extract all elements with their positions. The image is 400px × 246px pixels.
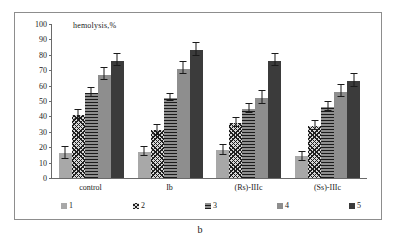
category-label-2: Ib	[130, 183, 209, 192]
bar	[177, 69, 190, 178]
error-bar-cap-top	[62, 146, 69, 147]
error-bar-cap-top	[167, 93, 174, 94]
error-bar-cap-bottom	[271, 65, 278, 66]
error-bar-cap-bottom	[75, 118, 82, 119]
bar-slot	[177, 24, 190, 178]
category-label-3: (Rs)-IIIc	[209, 183, 288, 192]
error-bar-cap-top	[311, 120, 318, 121]
legend-label: 5	[357, 201, 361, 210]
y-axis-tick-mark	[49, 178, 52, 179]
bar-slot	[190, 24, 203, 178]
figure: hemolysis,% 1009080706050403020100 contr…	[0, 0, 400, 246]
error-bar-cap-top	[350, 73, 357, 74]
error-bar-cap-top	[337, 84, 344, 85]
error-bar-cap-top	[180, 61, 187, 62]
bar-slot	[72, 24, 85, 178]
bar-slot	[255, 24, 268, 178]
bar-slot	[59, 24, 72, 178]
plot-area: 1009080706050403020100	[51, 24, 367, 179]
category-label-1: control	[51, 183, 130, 192]
bar-slot	[138, 24, 151, 178]
bar	[334, 92, 347, 178]
error-bar-cap-bottom	[167, 100, 174, 101]
bar-slot	[85, 24, 98, 178]
y-axis-tick-label: 100	[35, 20, 47, 29]
error-bar-cap-top	[219, 144, 226, 145]
error-bar-cap-bottom	[180, 73, 187, 74]
bar-slot	[216, 24, 229, 178]
bar-slot	[295, 24, 308, 178]
bar	[72, 115, 85, 178]
legend-swatch-icon	[349, 203, 355, 209]
error-bar-cap-top	[193, 42, 200, 43]
bar	[347, 81, 360, 178]
error-bar-cap-top	[245, 103, 252, 104]
error-bar-cap-bottom	[258, 103, 265, 104]
bar-slot	[111, 24, 124, 178]
error-bar-cap-top	[101, 67, 108, 68]
y-axis-tick-label: 10	[39, 158, 47, 167]
legend-item-3[interactable]: 3	[205, 201, 217, 210]
bar	[242, 109, 255, 178]
error-bar-cap-top	[271, 53, 278, 54]
error-bar-cap-top	[324, 101, 331, 102]
bar-slot	[151, 24, 164, 178]
bar-slot	[229, 24, 242, 178]
figure-caption: b	[0, 224, 400, 235]
bar-group	[288, 24, 367, 178]
legend-label: 1	[69, 201, 73, 210]
error-bar-cap-bottom	[311, 129, 318, 130]
error-bar-cap-top	[154, 124, 161, 125]
bar	[308, 126, 321, 178]
error-bar-cap-top	[298, 151, 305, 152]
error-bar-cap-bottom	[337, 96, 344, 97]
legend-swatch-icon	[205, 203, 211, 209]
legend-label: 4	[285, 201, 289, 210]
bar-slot	[308, 24, 321, 178]
bar	[164, 98, 177, 178]
error-bar-cap-bottom	[141, 155, 148, 156]
bar-slot	[334, 24, 347, 178]
bar-slot	[347, 24, 360, 178]
error-bar-cap-bottom	[232, 126, 239, 127]
bar	[321, 107, 334, 178]
bar-group	[210, 24, 289, 178]
bar-slot	[321, 24, 334, 178]
legend-item-5[interactable]: 5	[349, 201, 361, 210]
error-bar-cap-bottom	[298, 160, 305, 161]
error-bar-cap-bottom	[154, 134, 161, 135]
y-axis-tick-label: 80	[39, 50, 47, 59]
error-bar-cap-top	[232, 117, 239, 118]
y-axis-tick-label: 20	[39, 143, 47, 152]
legend-item-4[interactable]: 4	[277, 201, 289, 210]
legend-label: 3	[213, 201, 217, 210]
bar-groups	[52, 24, 367, 178]
bar-slot	[242, 24, 255, 178]
bar	[229, 123, 242, 178]
y-axis-tick-label: 0	[43, 174, 47, 183]
y-axis-tick-label: 60	[39, 81, 47, 90]
error-bar-cap-bottom	[193, 55, 200, 56]
y-axis-tick-label: 50	[39, 97, 47, 106]
error-bar-cap-bottom	[324, 110, 331, 111]
error-bar-cap-bottom	[101, 79, 108, 80]
legend-swatch-icon	[133, 203, 139, 209]
legend-item-1[interactable]: 1	[61, 201, 73, 210]
error-bar-cap-bottom	[350, 86, 357, 87]
error-bar-cap-top	[141, 146, 148, 147]
y-axis-tick-label: 90	[39, 35, 47, 44]
bar	[111, 61, 124, 178]
error-bar-cap-bottom	[62, 158, 69, 159]
error-bar-cap-top	[258, 90, 265, 91]
legend-item-2[interactable]: 2	[133, 201, 145, 210]
y-axis-tick-label: 70	[39, 66, 47, 75]
chart-frame: hemolysis,% 1009080706050403020100 contr…	[14, 12, 382, 220]
bar-slot	[164, 24, 177, 178]
bar	[255, 98, 268, 178]
legend-swatch-icon	[277, 203, 283, 209]
error-bar-cap-bottom	[245, 112, 252, 113]
category-axis-labels: controlIb(Rs)-IIIc(Ss)-IIIc	[51, 183, 367, 192]
error-bar-cap-bottom	[219, 154, 226, 155]
y-axis-tick-label: 40	[39, 112, 47, 121]
error-bar-cap-top	[114, 53, 121, 54]
